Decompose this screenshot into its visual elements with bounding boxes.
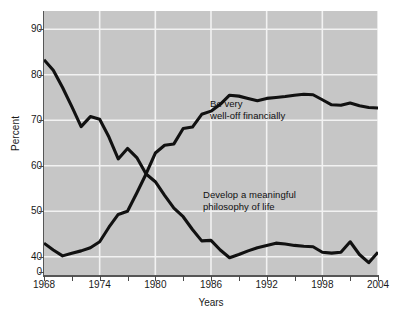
x-tick-mark-minor xyxy=(72,276,73,281)
x-tick-mark xyxy=(322,276,323,281)
x-axis-title: Years xyxy=(44,297,378,308)
y-tick-label: 50 xyxy=(12,206,42,216)
plot-svg xyxy=(44,11,378,275)
x-tick-label: 1986 xyxy=(191,280,231,290)
x-tick-mark-minor xyxy=(128,276,129,281)
y-tick-mark-zero xyxy=(39,272,44,273)
x-tick-mark xyxy=(211,276,212,281)
x-tick-label: 1998 xyxy=(302,280,342,290)
x-tick-mark-minor xyxy=(350,276,351,281)
series-annotation-wealth: Be very well-off financially xyxy=(210,98,285,121)
series-annotation-philosophy: Develop a meaningful philosophy of life xyxy=(203,189,296,212)
x-tick-label: 1968 xyxy=(24,280,64,290)
x-tick-mark-minor xyxy=(239,276,240,281)
y-tick-label: 80 xyxy=(12,70,42,80)
plot-area xyxy=(44,11,378,275)
y-tick-label: 70 xyxy=(12,115,42,125)
x-tick-mark xyxy=(44,276,45,281)
y-tick-mark xyxy=(39,29,44,30)
x-tick-mark xyxy=(100,276,101,281)
y-tick-mark xyxy=(39,166,44,167)
y-tick-mark xyxy=(39,211,44,212)
x-tick-label: 1974 xyxy=(80,280,120,290)
y-tick-mark xyxy=(39,75,44,76)
vertical-gridlines xyxy=(100,11,378,275)
y-tick-mark xyxy=(39,120,44,121)
y-tick-label: 60 xyxy=(12,161,42,171)
chart-figure: Percent 4050607080900 196819741980198619… xyxy=(0,0,396,316)
x-tick-mark xyxy=(155,276,156,281)
x-tick-label: 1992 xyxy=(247,280,287,290)
x-tick-mark-minor xyxy=(295,276,296,281)
y-tick-label: 40 xyxy=(12,252,42,262)
x-tick-mark xyxy=(378,276,379,281)
x-tick-mark xyxy=(267,276,268,281)
y-tick-mark xyxy=(39,257,44,258)
x-tick-mark-minor xyxy=(183,276,184,281)
y-tick-label: 90 xyxy=(12,24,42,34)
y-tick-label-zero: 0 xyxy=(12,267,42,277)
x-tick-label: 2004 xyxy=(358,280,396,290)
x-tick-label: 1980 xyxy=(135,280,175,290)
